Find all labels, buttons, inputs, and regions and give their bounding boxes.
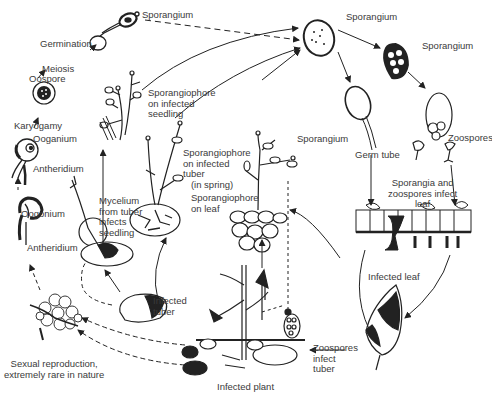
label-sexual-reproduction: Sexual reproduction, extremely rare in n… bbox=[4, 359, 104, 380]
label-antheridium-lower: Antheridium bbox=[27, 243, 78, 254]
label-antheridium-upper: Antheridium bbox=[33, 164, 84, 175]
sporangium-top-icon bbox=[300, 17, 338, 60]
label-oospore: Oospore bbox=[29, 74, 65, 85]
label-sporangiophore-leaf: Sporangiophore on leaf bbox=[191, 193, 259, 214]
label-zoospores: Zoospores bbox=[448, 133, 492, 144]
infected-plant-icon bbox=[182, 265, 305, 375]
label-karyogamy: Karyogamy bbox=[14, 121, 62, 132]
label-oganium: Ooganium bbox=[33, 134, 77, 145]
oospore-cluster-icon bbox=[30, 294, 82, 340]
oogonium-lower-icon bbox=[19, 198, 42, 245]
label-sporangium-top-center: Sporangium bbox=[346, 12, 397, 23]
label-infected-leaf: Infected leaf bbox=[368, 272, 420, 283]
label-zoospores-infect-tuber: Zoospores infect tuber bbox=[313, 343, 358, 375]
infected-seedling-icon bbox=[100, 71, 141, 140]
label-sporangiophore-seedling: Sporangiophore on infected seedling bbox=[148, 88, 216, 120]
infected-leaf-icon bbox=[366, 285, 402, 370]
label-sporangia-zoospores-infect-leaf: Sporangia and zoospores infect leaf bbox=[388, 178, 457, 210]
label-germination: Germination bbox=[40, 39, 92, 50]
life-cycle-diagram: Sporangium Germination Meiosis Oospore K… bbox=[0, 0, 492, 395]
releasing-sporangium-icon bbox=[413, 93, 455, 162]
label-sporangiophore-tuber: Sporangiophore on infected tuber (in spr… bbox=[183, 148, 251, 190]
label-germ-tube: Germ tube bbox=[355, 150, 400, 161]
oogonium-upper-icon bbox=[12, 139, 38, 185]
label-sporangium-top-right: Sporangium bbox=[422, 41, 473, 52]
label-sporangium-mid: Sporangium bbox=[297, 134, 348, 145]
label-mycelium-tuber: Mycelium from tuber infects seedling bbox=[99, 196, 142, 238]
oospore-icon bbox=[33, 82, 55, 104]
germinating-oospore-icon bbox=[90, 11, 139, 50]
label-infected-tuber: Infected tuber bbox=[153, 296, 187, 317]
label-sporangium-top-left: Sporangium bbox=[142, 10, 193, 21]
label-oogonium: Oogonium bbox=[21, 209, 65, 220]
sporangium-zoospores-forming-icon bbox=[384, 44, 408, 78]
label-infected-plant: Infected plant bbox=[217, 382, 274, 393]
